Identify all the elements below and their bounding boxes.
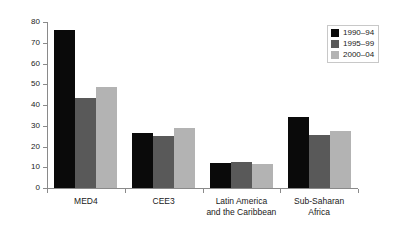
x-axis-category-label: Sub-Saharan Africa [280,196,358,218]
y-axis-tick-label: 0 [36,184,40,192]
y-axis-tick-mark [43,43,47,44]
y-axis-tick-label: 20 [31,143,40,151]
legend: 1990–94 1995–99 2000–04 [327,25,379,63]
y-axis-tick-label: 40 [31,101,40,109]
legend-item-label: 1990–94 [343,29,374,37]
bar-group [210,22,273,188]
y-axis-tick-label: 10 [31,163,40,171]
bar [96,87,117,188]
legend-item: 2000–04 [331,51,374,59]
bar [54,30,75,188]
legend-item-label: 1995–99 [343,40,374,48]
bar [330,131,351,188]
legend-swatch-icon [331,51,339,59]
y-axis-tick-mark [43,167,47,168]
y-axis-tick-label: 60 [31,60,40,68]
bar [174,128,195,188]
x-axis-category-label: Latin America and the Caribbean [203,196,281,218]
legend-item: 1990–94 [331,29,374,37]
x-axis-tick-mark [358,189,359,193]
legend-swatch-icon [331,29,339,37]
x-axis-tick-mark [203,189,204,193]
x-axis-tick-mark [47,189,48,193]
y-axis-tick-mark [43,22,47,23]
bar [75,98,96,188]
y-axis-tick-mark [43,126,47,127]
bar-chart: 80706050403020100 MED4CEE3Latin America … [0,0,406,241]
bar [132,133,153,188]
y-axis-tick-label: 30 [31,122,40,130]
bar-group [54,22,117,188]
bar [309,135,330,188]
y-axis-tick-mark [43,64,47,65]
legend-item-label: 2000–04 [343,51,374,59]
bar-group [132,22,195,188]
bar [153,136,174,188]
y-axis-tick-label: 80 [31,18,40,26]
legend-swatch-icon [331,40,339,48]
bar [231,162,252,188]
y-axis-tick-mark [43,147,47,148]
y-axis-tick-label: 50 [31,80,40,88]
bar [288,117,309,188]
x-axis-category-label: CEE3 [125,196,203,207]
bar [252,164,273,188]
plot-area: 80706050403020100 [47,22,358,188]
y-axis-tick-mark [43,84,47,85]
y-axis-tick-mark [43,105,47,106]
y-axis-tick-label: 70 [31,39,40,47]
x-axis-category-label: MED4 [47,196,125,207]
legend-item: 1995–99 [331,40,374,48]
x-axis-tick-mark [125,189,126,193]
x-axis-tick-mark [280,189,281,193]
bar [210,163,231,188]
